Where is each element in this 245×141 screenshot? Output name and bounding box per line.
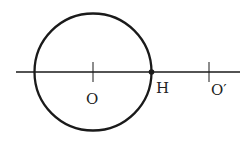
- point-h: [149, 69, 155, 75]
- label-h: H: [156, 79, 169, 97]
- diagram-canvas: O H O′: [0, 0, 245, 141]
- label-o: O: [86, 90, 98, 108]
- label-o-prime: O′: [211, 81, 227, 99]
